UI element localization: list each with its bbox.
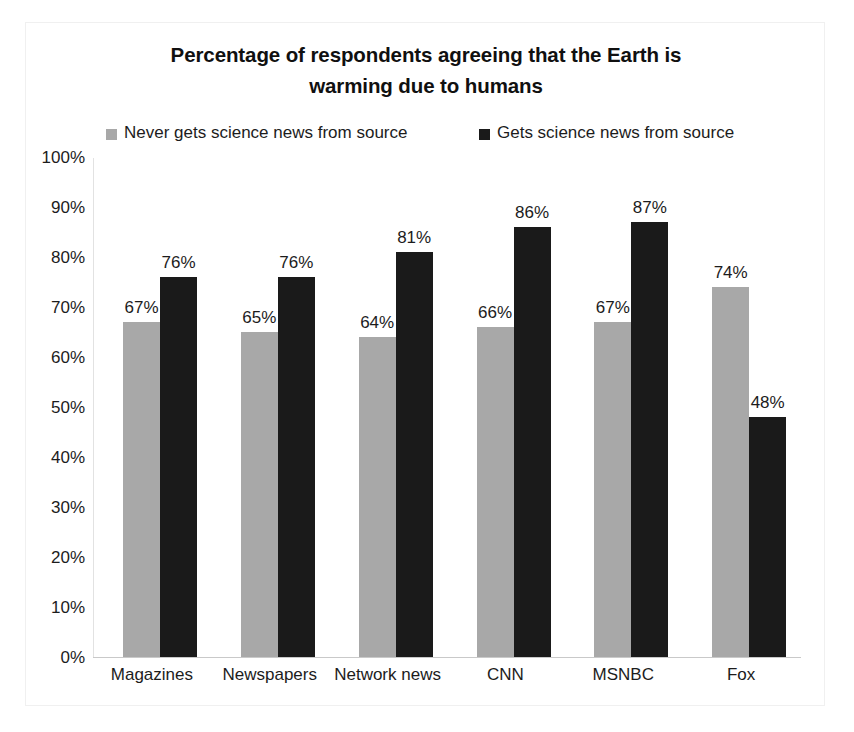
bar[interactable]: 74%: [712, 287, 749, 657]
bar-rect: [749, 417, 786, 657]
x-axis-tick-label: MSNBC: [564, 663, 682, 687]
bar-rect: [594, 322, 631, 657]
bar-group: 74%48%: [683, 158, 801, 657]
legend-entry-1[interactable]: Gets science news from source: [479, 123, 734, 143]
y-axis-tick-label: 20%: [27, 548, 85, 568]
bar[interactable]: 67%: [594, 322, 631, 657]
y-axis-tick-label: 70%: [27, 298, 85, 318]
y-axis-labels: 100%90%80%70%60%50%40%30%20%10%0%: [27, 158, 85, 658]
bar-rect: [477, 327, 514, 657]
bar-group: 64%81%: [330, 158, 448, 657]
bar-group: 67%87%: [565, 158, 683, 657]
y-axis-tick-label: 100%: [27, 148, 85, 168]
bar-rect: [359, 337, 396, 657]
bar-value-label: 76%: [262, 253, 331, 273]
legend-label-1: Gets science news from source: [497, 123, 734, 143]
x-axis-tick-label: CNN: [447, 663, 565, 687]
bar-value-label: 86%: [498, 203, 567, 223]
bar[interactable]: 81%: [396, 252, 433, 657]
legend-swatch-icon-1: [479, 129, 490, 140]
x-axis-labels: MagazinesNewspapersNetwork newsCNNMSNBCF…: [93, 663, 801, 693]
plot-area: 100%90%80%70%60%50%40%30%20%10%0% 67%76%…: [93, 158, 801, 658]
x-axis-tick-label: Newspapers: [211, 663, 329, 687]
bar-value-label: 87%: [615, 198, 684, 218]
bar[interactable]: 76%: [278, 277, 315, 657]
legend-swatch-icon-0: [106, 129, 117, 140]
bar[interactable]: 64%: [359, 337, 396, 657]
chart-title-line-2: warming due to humans: [86, 70, 766, 101]
bar-group: 67%76%: [94, 158, 212, 657]
bar[interactable]: 87%: [631, 222, 668, 657]
chart-container: Percentage of respondents agreeing that …: [25, 22, 825, 706]
legend-entry-0[interactable]: Never gets science news from source: [106, 123, 407, 143]
bar-rect: [396, 252, 433, 657]
x-axis-tick-label: Fox: [682, 663, 800, 687]
x-axis-tick-label: Magazines: [93, 663, 211, 687]
bar-value-label: 76%: [144, 253, 213, 273]
bar[interactable]: 66%: [477, 327, 514, 657]
y-axis-tick-label: 50%: [27, 398, 85, 418]
bar-rect: [631, 222, 668, 657]
bar-value-label: 48%: [733, 393, 802, 413]
bars-layer: 67%76%65%76%64%81%66%86%67%87%74%48%: [94, 158, 801, 657]
chart-title: Percentage of respondents agreeing that …: [86, 39, 766, 101]
y-axis-tick-label: 80%: [27, 248, 85, 268]
bar-rect: [160, 277, 197, 657]
chart-legend: Never gets science news from sourceGets …: [26, 123, 826, 149]
legend-label-0: Never gets science news from source: [124, 123, 407, 143]
bar-group: 65%76%: [212, 158, 330, 657]
chart-title-line-1: Percentage of respondents agreeing that …: [86, 39, 766, 70]
bar-rect: [712, 287, 749, 657]
bar[interactable]: 48%: [749, 417, 786, 657]
bar-rect: [278, 277, 315, 657]
y-axis-tick-label: 40%: [27, 448, 85, 468]
y-axis-tick-label: 60%: [27, 348, 85, 368]
y-axis-tick-label: 0%: [27, 648, 85, 668]
bar-group: 66%86%: [448, 158, 566, 657]
x-axis-tick-label: Network news: [329, 663, 447, 687]
bar[interactable]: 65%: [241, 332, 278, 657]
y-axis-tick-label: 10%: [27, 598, 85, 618]
y-axis-tick-label: 90%: [27, 198, 85, 218]
bar-value-label: 74%: [696, 263, 765, 283]
bar-rect: [241, 332, 278, 657]
y-axis-tick-label: 30%: [27, 498, 85, 518]
bar[interactable]: 76%: [160, 277, 197, 657]
bar-value-label: 81%: [380, 228, 449, 248]
bar[interactable]: 86%: [514, 227, 551, 657]
x-axis-line: [93, 657, 801, 658]
bar-rect: [123, 322, 160, 657]
bar[interactable]: 67%: [123, 322, 160, 657]
bar-rect: [514, 227, 551, 657]
